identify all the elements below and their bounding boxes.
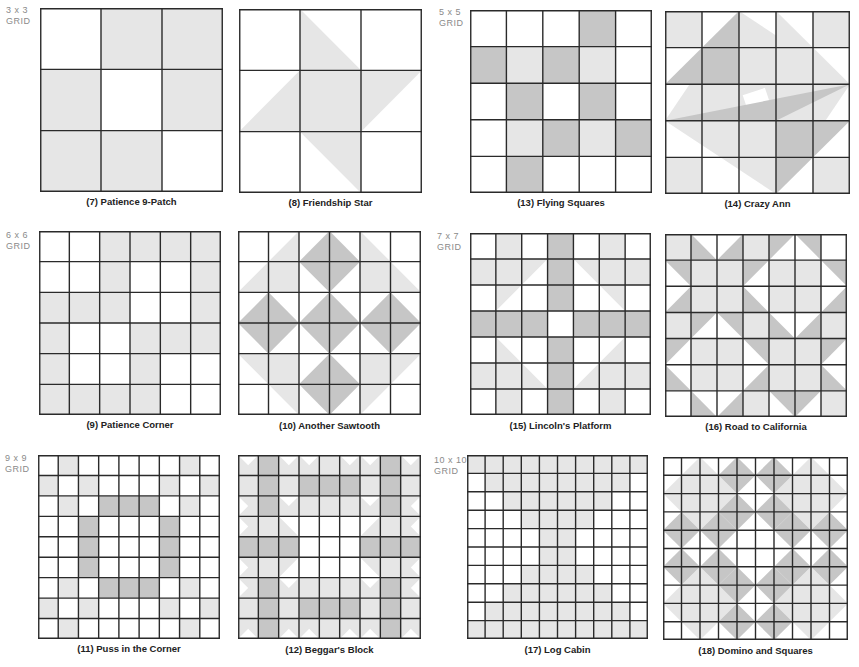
block-caption: (13) Flying Squares: [470, 197, 652, 208]
quilt-grid: [38, 455, 220, 639]
grid-word-text: GRID: [437, 242, 462, 253]
grid-size-text: 9 x 9: [5, 453, 30, 464]
quilt-grid: [239, 9, 422, 193]
grid-label-10x10: 10 x 10 GRID: [434, 455, 467, 477]
quilt-grid: [470, 233, 651, 415]
quilt-grid: [238, 231, 421, 415]
quilt-block-beggars-block: [238, 455, 421, 639]
quilt-grid: [665, 234, 847, 417]
grid-word-text: GRID: [5, 464, 30, 475]
grid-label-3x3: 3 x 3 GRID: [6, 5, 31, 27]
quilt-block-patience-corner: [39, 231, 221, 415]
grid-word-text: GRID: [439, 18, 464, 29]
block-caption: (7) Patience 9-Patch: [40, 196, 223, 207]
quilt-block-another-sawtooth: [238, 231, 421, 415]
quilt-block-friendship-star: [239, 9, 422, 193]
quilt-block-crazy-ann: [665, 11, 850, 194]
block-caption: (14) Crazy Ann: [665, 198, 850, 209]
grid-word-text: GRID: [434, 466, 467, 477]
block-caption: (15) Lincoln's Platform: [470, 420, 651, 431]
grid-size-text: 6 x 6: [6, 230, 31, 241]
block-caption: (11) Puss in the Corner: [38, 643, 220, 654]
grid-size-text: 3 x 3: [6, 5, 31, 16]
grid-word-text: GRID: [6, 241, 31, 252]
block-caption: (8) Friendship Star: [239, 197, 422, 208]
grid-word-text: GRID: [6, 16, 31, 27]
block-caption: (18) Domino and Squares: [663, 645, 848, 656]
quilt-grid: [663, 457, 848, 640]
block-caption: (12) Beggar's Block: [238, 644, 421, 655]
quilt-grid: [470, 10, 652, 193]
block-caption: (10) Another Sawtooth: [238, 420, 421, 431]
quilt-block-puss-in-the-corner: [38, 455, 220, 639]
quilt-grid: [39, 231, 221, 415]
quilt-grid: [238, 455, 421, 639]
quilt-grid: [467, 455, 648, 639]
block-caption: (9) Patience Corner: [39, 419, 221, 430]
grid-label-5x5: 5 x 5 GRID: [439, 7, 464, 29]
quilt-block-road-to-california: [665, 234, 847, 417]
quilt-grid: [665, 11, 850, 194]
quilt-grid: [40, 8, 223, 192]
grid-size-text: 10 x 10: [434, 455, 467, 466]
quilt-block-lincolns-platform: [470, 233, 651, 415]
grid-label-7x7: 7 x 7 GRID: [437, 231, 462, 253]
grid-label-9x9: 9 x 9 GRID: [5, 453, 30, 475]
grid-label-6x6: 6 x 6 GRID: [6, 230, 31, 252]
quilt-block-domino-and-squares: [663, 457, 848, 640]
block-caption: (16) Road to California: [665, 421, 847, 432]
grid-size-text: 7 x 7: [437, 231, 462, 242]
quilt-block-patience-9-patch: [40, 8, 223, 192]
quilt-block-log-cabin: [467, 455, 648, 639]
grid-size-text: 5 x 5: [439, 7, 464, 18]
block-caption: (17) Log Cabin: [467, 644, 648, 655]
quilt-block-flying-squares: [470, 10, 652, 193]
